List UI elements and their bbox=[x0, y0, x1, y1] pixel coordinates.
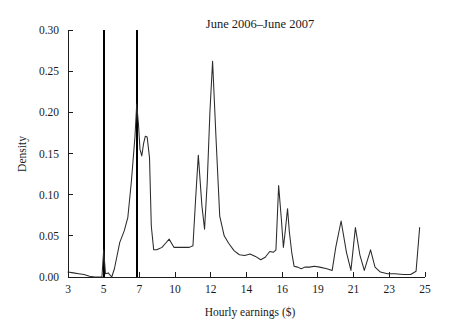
y-tick-label: 0.30 bbox=[39, 24, 59, 36]
x-tick-label: 3 bbox=[65, 283, 71, 295]
y-tick-label: 0.00 bbox=[39, 271, 59, 283]
x-tick-label: 14 bbox=[241, 283, 253, 295]
chart-canvas: June 2006–June 2007 0.000.050.100.150.20… bbox=[0, 0, 450, 335]
x-tick-label: 7 bbox=[137, 283, 143, 295]
y-tick-label: 0.15 bbox=[39, 148, 59, 160]
x-tick-label: 10 bbox=[169, 283, 181, 295]
x-tick-label: 5 bbox=[101, 283, 107, 295]
density-curve bbox=[68, 61, 420, 277]
x-axis-tick-labels: 3571012141619212325 bbox=[65, 283, 431, 295]
chart-title: June 2006–June 2007 bbox=[206, 17, 314, 31]
x-tick-label: 12 bbox=[205, 283, 217, 295]
x-tick-label: 25 bbox=[419, 283, 431, 295]
y-tick-label: 0.25 bbox=[39, 65, 59, 77]
x-tick-label: 19 bbox=[312, 283, 324, 295]
y-tick-label: 0.05 bbox=[39, 230, 59, 242]
density-chart-figure: June 2006–June 2007 0.000.050.100.150.20… bbox=[0, 0, 450, 335]
x-tick-label: 21 bbox=[348, 283, 360, 295]
y-tick-label: 0.20 bbox=[39, 106, 59, 118]
y-tick-label: 0.10 bbox=[39, 189, 59, 201]
x-tick-label: 23 bbox=[384, 283, 396, 295]
axis-tick-marks bbox=[68, 30, 425, 277]
y-axis-title: Density bbox=[16, 136, 29, 172]
y-axis-tick-labels: 0.000.050.100.150.200.250.30 bbox=[39, 24, 59, 283]
x-axis-title: Hourly earnings ($) bbox=[205, 306, 296, 319]
x-tick-label: 16 bbox=[276, 283, 288, 295]
